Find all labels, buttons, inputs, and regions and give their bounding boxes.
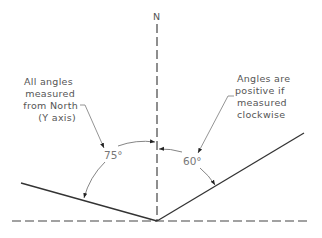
left-note: All angles measured from North (Y axis) bbox=[23, 76, 78, 123]
svg-text:positive if: positive if bbox=[235, 85, 285, 96]
svg-text:measured: measured bbox=[237, 97, 287, 108]
angle-60-label: 60° bbox=[183, 155, 202, 167]
svg-text:All angles: All angles bbox=[24, 76, 73, 87]
right-bearing-line bbox=[157, 133, 304, 221]
left-bearing-line bbox=[21, 183, 157, 221]
angle-75-label: 75° bbox=[104, 149, 123, 161]
right-leader bbox=[198, 96, 234, 153]
svg-text:clockwise: clockwise bbox=[237, 109, 285, 120]
arc-60-upper bbox=[159, 149, 182, 152]
angle-diagram: N 75° 60° All angles measured from North… bbox=[0, 0, 322, 238]
svg-text:Angles are: Angles are bbox=[237, 73, 290, 84]
svg-text:from North: from North bbox=[23, 100, 78, 111]
svg-text:(Y axis): (Y axis) bbox=[38, 112, 76, 123]
left-leader bbox=[80, 105, 104, 148]
arc-75-lower bbox=[84, 162, 105, 198]
right-note: Angles are positive if measured clockwis… bbox=[235, 73, 290, 120]
north-label: N bbox=[153, 11, 160, 22]
arc-60-lower bbox=[200, 168, 215, 185]
arc-75 bbox=[118, 141, 155, 146]
svg-text:measured: measured bbox=[25, 88, 75, 99]
